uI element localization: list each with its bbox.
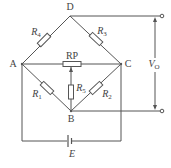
label-r1-sub: 1 (38, 93, 42, 101)
node-a-dot (21, 63, 23, 65)
label-vo-sub: O (155, 63, 160, 71)
node-label-d: D (66, 2, 73, 12)
label-r3-sub: 3 (103, 30, 107, 38)
node-b-dot (70, 110, 72, 112)
label-rp: RP (66, 51, 78, 61)
label-e: E (69, 149, 75, 159)
label-r2-sub: 2 (108, 93, 112, 101)
resistor-r1-icon (40, 81, 54, 94)
label-r5-sub: 5 (82, 87, 86, 95)
label-r5: R5 (76, 83, 86, 96)
label-r1: R1 (32, 89, 42, 102)
label-r4-sub: 4 (37, 31, 41, 39)
vo-arrow-down-icon (153, 105, 157, 110)
wiper-arrow-icon (69, 67, 73, 72)
bridge-circuit-diagram: D A C B RP R4 R3 R1 R2 R5 E VO (0, 0, 171, 168)
node-label-a: A (9, 59, 16, 69)
label-r2: R2 (102, 89, 112, 102)
label-r3: R3 (97, 26, 107, 39)
node-label-b: B (68, 114, 75, 124)
vo-arrow-up-icon (153, 17, 157, 22)
output-terminal-top (160, 14, 164, 18)
output-terminal-bottom (160, 109, 164, 113)
label-r4: R4 (31, 27, 41, 40)
resistor-r2-icon (89, 81, 103, 94)
resistor-r5-icon (69, 85, 74, 99)
label-vo: VO (148, 59, 159, 72)
node-c-dot (120, 63, 122, 65)
potentiometer-rp-icon (63, 62, 81, 67)
node-label-c: C (125, 59, 132, 69)
